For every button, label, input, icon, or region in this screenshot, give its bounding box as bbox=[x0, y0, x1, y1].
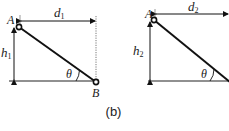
label-theta-right: θ bbox=[201, 67, 207, 81]
label-d2: d2 bbox=[188, 0, 199, 15]
figure-caption: (b) bbox=[0, 104, 229, 119]
right-panel bbox=[148, 9, 229, 82]
point-b-dot-left bbox=[93, 79, 98, 84]
angle-arc-left bbox=[76, 70, 80, 81]
point-a-dot-left bbox=[16, 24, 21, 29]
label-h2: h2 bbox=[133, 43, 144, 59]
label-d1: d1 bbox=[54, 5, 65, 21]
label-h1: h1 bbox=[1, 45, 12, 61]
left-panel bbox=[9, 15, 99, 85]
label-b-left: B bbox=[92, 86, 100, 100]
slope-line-right bbox=[154, 20, 229, 82]
label-a-left: A bbox=[6, 13, 15, 27]
label-theta-left: θ bbox=[66, 67, 72, 81]
caption-text: (b) bbox=[106, 104, 122, 119]
slope-line-left bbox=[19, 27, 96, 82]
angle-arc-right bbox=[210, 69, 214, 81]
label-a-right: A bbox=[144, 7, 153, 21]
